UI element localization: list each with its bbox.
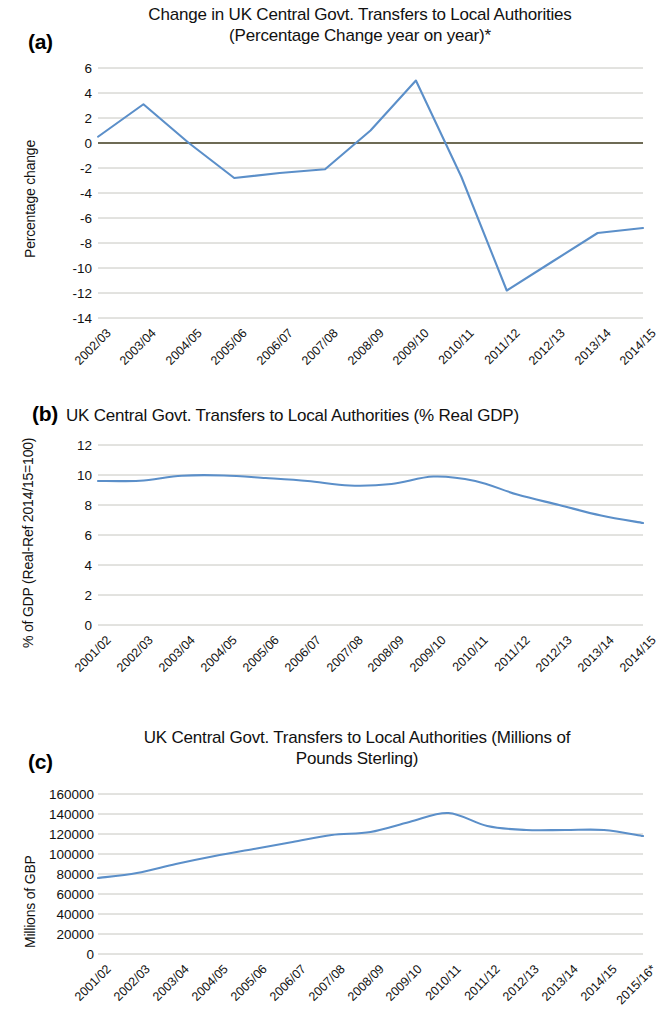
panel-a-x-ticks: 2002/032003/042004/052005/062006/072007/…	[98, 322, 643, 392]
panel-c: (c) UK Central Govt. Transfers to Local …	[0, 718, 661, 1020]
panel-b-plot-area	[98, 445, 643, 625]
panel-b-y-ticks: 12 10 8 6 4 2 0	[28, 445, 92, 625]
data-series-line	[98, 475, 643, 523]
panel-c-x-ticks: 2001/022002/032003/042004/052005/062006/…	[98, 958, 643, 1020]
y-tick: 140000	[49, 807, 94, 822]
panel-a-y-ticks: 6 4 2 0 -2 -4 -6 -8 -10 -12 -14	[30, 68, 92, 318]
panel-c-plot-area	[98, 794, 643, 954]
y-tick: -6	[80, 211, 92, 226]
x-tick-label: 2011/12	[472, 326, 523, 377]
y-tick: 100000	[49, 847, 94, 862]
y-tick: 0	[84, 136, 92, 151]
x-tick-label: 2007/08	[290, 326, 341, 377]
x-tick-label: 2008/09	[335, 326, 386, 377]
y-tick: -8	[80, 236, 92, 251]
panel-b-x-ticks: 2001/022002/032003/042004/052005/062006/…	[98, 629, 643, 699]
panel-b-title-line1: UK Central Govt. Transfers to Local Auth…	[66, 405, 656, 426]
panel-c-label: (c)	[28, 750, 53, 774]
y-tick: 2	[84, 111, 92, 126]
y-tick: 0	[86, 947, 94, 962]
data-series-line	[98, 81, 643, 291]
y-tick: 2	[84, 588, 92, 603]
y-tick: -2	[80, 161, 92, 176]
panel-c-title-line1: UK Central Govt. Transfers to Local Auth…	[72, 727, 642, 748]
y-tick: -12	[72, 286, 92, 301]
y-tick: 8	[84, 498, 92, 513]
y-tick: 60000	[56, 887, 94, 902]
y-tick: 120000	[49, 827, 94, 842]
panel-a-title-line1: Change in UK Central Govt. Transfers to …	[80, 4, 640, 25]
y-tick: 40000	[56, 907, 94, 922]
y-tick: 0	[84, 618, 92, 633]
panel-b-label: (b)	[32, 402, 58, 426]
y-tick: 80000	[56, 867, 94, 882]
y-tick: 4	[84, 558, 92, 573]
y-tick: -10	[72, 261, 92, 276]
y-tick: 12	[77, 438, 92, 453]
panel-a-plot-area	[98, 68, 643, 318]
x-tick-label: 2009/10	[381, 326, 432, 377]
x-tick-label: 2012/13	[517, 326, 568, 377]
x-tick-label: 2003/04	[108, 326, 159, 377]
panel-c-title-line2: Pounds Sterling)	[72, 748, 642, 769]
x-tick-label: 2010/11	[426, 326, 477, 377]
y-tick: 20000	[56, 927, 94, 942]
panel-a: (a) Change in UK Central Govt. Transfers…	[0, 0, 661, 400]
panel-a-title-line2: (Percentage Change year on year)*	[80, 25, 640, 46]
panel-b: (b) UK Central Govt. Transfers to Local …	[0, 398, 661, 718]
panel-a-label: (a)	[28, 30, 53, 54]
y-tick: -4	[80, 186, 92, 201]
y-tick: 4	[84, 86, 92, 101]
panel-b-title: UK Central Govt. Transfers to Local Auth…	[66, 405, 656, 426]
x-tick-label: 2006/07	[245, 326, 296, 377]
x-tick-label: 2005/06	[199, 326, 250, 377]
data-series-line	[98, 813, 643, 878]
panel-c-title: UK Central Govt. Transfers to Local Auth…	[72, 727, 642, 769]
x-tick-label: 2004/05	[154, 326, 205, 377]
y-tick: 6	[84, 528, 92, 543]
panel-a-title: Change in UK Central Govt. Transfers to …	[80, 4, 640, 46]
x-tick-label: 2014/15	[608, 326, 659, 377]
y-tick: 10	[77, 468, 92, 483]
y-tick: 6	[84, 61, 92, 76]
x-tick-label: 2013/14	[563, 326, 614, 377]
y-tick: 160000	[49, 787, 94, 802]
x-tick-label: 2002/03	[63, 326, 114, 377]
panel-c-y-ticks: 160000 140000 120000 100000 80000 60000 …	[18, 794, 94, 954]
y-tick: -14	[72, 311, 92, 326]
